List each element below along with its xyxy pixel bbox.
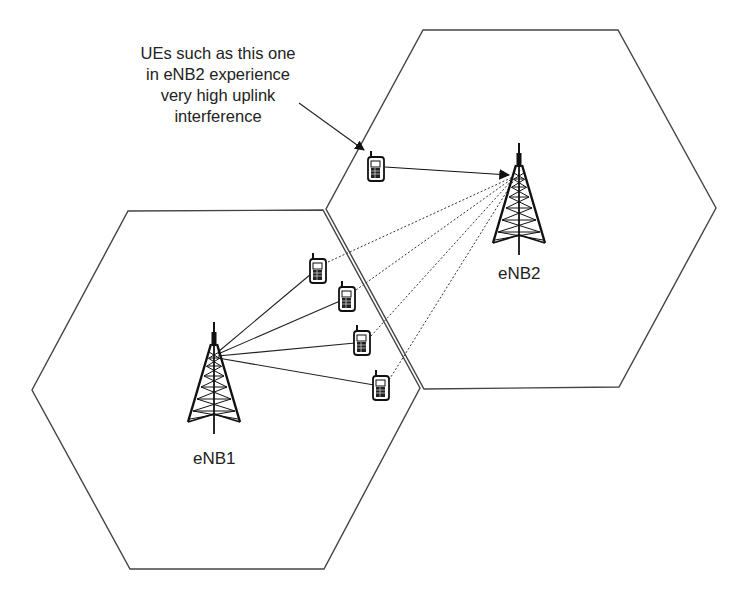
enb2-tower-icon [493, 143, 545, 255]
annotation-text: UEs such as this one in eNB2 experience … [118, 43, 318, 127]
serving-link-enb2 [385, 167, 509, 175]
enb1-tower-icon [188, 322, 240, 434]
annotation-line: very high uplink [118, 85, 318, 106]
enb2-label: eNB2 [498, 264, 541, 284]
ue-1-phone-icon [310, 253, 326, 283]
cell-enb1-hexagon [32, 210, 420, 569]
annotation-line: UEs such as this one [118, 43, 318, 64]
ue-enb2-phone-icon [368, 151, 384, 181]
network-diagram [0, 0, 749, 594]
ue-4-phone-icon [373, 370, 389, 400]
ue-3-phone-icon [354, 325, 370, 355]
annotation-line: in eNB2 experience [118, 64, 318, 85]
ue-2-phone-icon [339, 281, 355, 311]
enb1-label: eNB1 [193, 449, 236, 469]
cell-enb2-hexagon [326, 30, 716, 389]
annotation-line: interference [118, 106, 318, 127]
diagram-canvas: UEs such as this one in eNB2 experience … [0, 0, 749, 594]
